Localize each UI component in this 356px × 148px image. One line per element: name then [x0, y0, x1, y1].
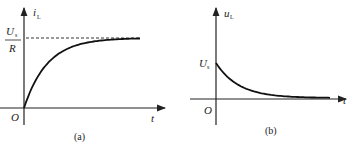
figure: i L U s R O t (a) u L U s O t (b)	[0, 0, 356, 148]
origin-a: O	[11, 111, 19, 123]
caption-b: (b)	[265, 125, 277, 137]
level-den: R	[8, 42, 16, 54]
x-label-b: t	[343, 94, 347, 106]
origin-b: O	[204, 104, 212, 116]
current-curve	[24, 39, 140, 109]
x-label-a: t	[151, 112, 155, 124]
start-label-sub: s	[207, 64, 210, 70]
y-sub-a: L	[37, 14, 41, 20]
caption-a: (a)	[74, 131, 85, 143]
level-num-sub: s	[15, 32, 18, 38]
level-num: U	[6, 25, 15, 37]
panel-a: i L U s R O t (a)	[0, 6, 165, 143]
panel-b: u L U s O t (b)	[190, 7, 347, 137]
y-label-a: i	[33, 6, 36, 18]
voltage-curve	[216, 63, 330, 98]
y-sub-b: L	[230, 14, 234, 20]
